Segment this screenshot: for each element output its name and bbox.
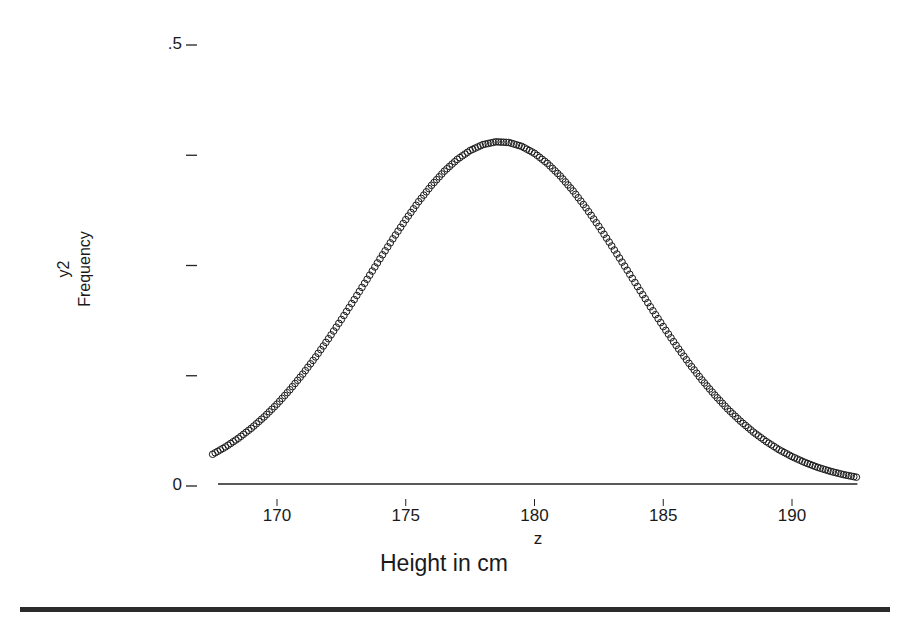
y-tick-label: 0 — [173, 475, 182, 495]
chart-plot-area — [0, 0, 903, 624]
y-axis — [186, 45, 197, 486]
y-axis-title: Frequency — [74, 219, 95, 319]
y-axis-title-group: y2 Frequency — [53, 219, 95, 319]
x-variable-name: z — [534, 529, 543, 549]
y-tick-label: .5 — [168, 34, 182, 54]
x-axis-title: Height in cm — [380, 550, 508, 577]
x-tick-label: 180 — [520, 506, 548, 526]
x-tick-label: 175 — [392, 506, 420, 526]
x-tick-label: 185 — [649, 506, 677, 526]
data-series-y2 — [209, 139, 859, 481]
x-tick-label: 190 — [778, 506, 806, 526]
y-variable-name: y2 — [53, 219, 74, 319]
x-axis — [218, 484, 857, 506]
horizontal-divider-rule — [20, 607, 890, 612]
x-tick-label: 170 — [263, 506, 291, 526]
